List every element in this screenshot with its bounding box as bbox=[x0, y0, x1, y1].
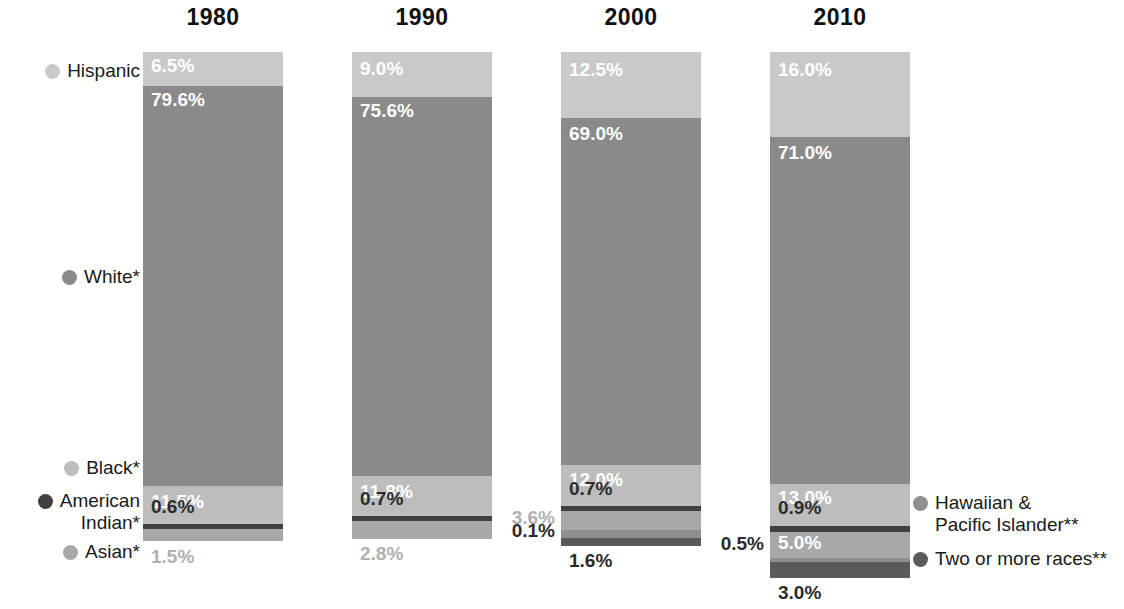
segment-value-hawaiian-2000: 0.1% bbox=[512, 520, 555, 542]
year-label-1990: 1990 bbox=[352, 4, 492, 31]
segment-hawaiian-2000: 0.1% bbox=[561, 530, 701, 538]
legend-label-hispanic: Hispanic bbox=[67, 60, 140, 82]
segment-value-hispanic-1990: 9.0% bbox=[360, 58, 403, 80]
segment-value-hispanic-2000: 12.5% bbox=[569, 59, 623, 81]
segment-white-2000: 69.0% bbox=[561, 118, 701, 465]
segment-asian-1980: 1.5% bbox=[143, 529, 283, 541]
segment-value-american-indian-2010: 0.9% bbox=[778, 497, 821, 519]
bar-2000: 12.5% 69.0% 12.0% 0.7% 3.6% 0.1% 1.6% bbox=[561, 52, 701, 546]
segment-value-hispanic-2010: 16.0% bbox=[778, 59, 832, 81]
legend-dot-american-indian bbox=[38, 494, 53, 509]
segment-hispanic-2000: 12.5% bbox=[561, 52, 701, 118]
segment-hispanic-1980: 6.5% bbox=[143, 52, 283, 86]
segment-value-hispanic-1980: 6.5% bbox=[151, 55, 194, 77]
year-label-1980: 1980 bbox=[143, 4, 283, 31]
bar-1980: 6.5% 79.6% 11.5% 0.6% 1.5% bbox=[143, 52, 283, 541]
segment-value-asian-1990: 2.8% bbox=[360, 543, 403, 565]
segment-value-american-indian-1980: 0.6% bbox=[151, 496, 194, 518]
chart-canvas: 1980 1990 2000 2010 Hispanic White* Blac… bbox=[0, 0, 1124, 609]
segment-value-white-1990: 75.6% bbox=[360, 100, 414, 122]
legend-dot-asian bbox=[63, 545, 78, 560]
legend-label-hawaiian: Hawaiian & Pacific Islander** bbox=[935, 492, 1079, 536]
segment-white-2010: 71.0% bbox=[770, 137, 910, 484]
legend-label-asian: Asian* bbox=[85, 541, 140, 563]
legend-dot-hawaiian bbox=[913, 496, 928, 511]
segment-asian-2000: 3.6% bbox=[561, 511, 701, 530]
legend-item-black: Black* bbox=[20, 457, 140, 479]
legend-dot-white bbox=[62, 270, 77, 285]
segment-value-two-or-more-2010: 3.0% bbox=[778, 582, 821, 604]
legend-dot-two-or-more bbox=[913, 552, 928, 567]
legend-label-white: White* bbox=[84, 266, 140, 288]
segment-value-white-2000: 69.0% bbox=[569, 123, 623, 145]
legend-item-american-indian: American Indian* bbox=[5, 490, 140, 534]
legend-dot-hispanic bbox=[45, 64, 60, 79]
legend-label-black: Black* bbox=[86, 457, 140, 479]
segment-value-asian-1980: 1.5% bbox=[151, 546, 194, 568]
bar-1990: 9.0% 75.6% 11.8% 0.7% 2.8% bbox=[352, 52, 492, 539]
segment-value-american-indian-2000: 0.7% bbox=[569, 478, 612, 500]
year-label-2000: 2000 bbox=[561, 4, 701, 31]
legend-dot-black bbox=[64, 461, 79, 476]
legend-item-hawaiian: Hawaiian & Pacific Islander** bbox=[913, 492, 1123, 536]
segment-value-hawaiian-2010: 0.5% bbox=[721, 533, 764, 555]
legend-label-two-or-more: Two or more races** bbox=[935, 548, 1107, 570]
legend-item-asian: Asian* bbox=[20, 541, 140, 563]
segment-value-two-or-more-2000: 1.6% bbox=[569, 550, 612, 572]
segment-hispanic-2010: 16.0% bbox=[770, 52, 910, 137]
bar-2010: 16.0% 71.0% 13.0% 0.9% 5.0% 0.5% 3.0% bbox=[770, 52, 910, 578]
segment-asian-2010: 5.0% bbox=[770, 532, 910, 558]
legend-item-hispanic: Hispanic bbox=[20, 60, 140, 82]
segment-value-american-indian-1990: 0.7% bbox=[360, 488, 403, 510]
legend-label-american-indian: American Indian* bbox=[60, 490, 140, 534]
segment-value-white-2010: 71.0% bbox=[778, 142, 832, 164]
segment-white-1980: 79.6% bbox=[143, 86, 283, 486]
segment-value-asian-2010: 5.0% bbox=[778, 532, 821, 554]
segment-asian-1990: 2.8% bbox=[352, 521, 492, 539]
segment-hispanic-1990: 9.0% bbox=[352, 52, 492, 97]
legend-item-two-or-more: Two or more races** bbox=[913, 548, 1123, 570]
segment-two-or-more-2000: 1.6% bbox=[561, 538, 701, 546]
legend-item-white: White* bbox=[20, 266, 140, 288]
year-label-2010: 2010 bbox=[770, 4, 910, 31]
segment-white-1990: 75.6% bbox=[352, 97, 492, 476]
segment-two-or-more-2010: 3.0% bbox=[770, 562, 910, 578]
segment-value-white-1980: 79.6% bbox=[151, 89, 205, 111]
